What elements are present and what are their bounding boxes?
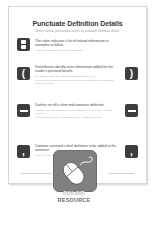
dash-icon-right xyxy=(125,104,138,117)
badge-label-resource: RESOURCE xyxy=(48,197,100,203)
comma-icon: , xyxy=(17,145,30,158)
close-parenthesis-icon: ) xyxy=(125,67,138,80)
dash-icon xyxy=(17,104,30,117)
comma-icon-right: , xyxy=(125,145,138,158)
page-title: Punctuate Definition Details xyxy=(9,20,146,27)
entry-example-2: The PLC (Programmable Logic Controller) … xyxy=(35,79,121,85)
entry-example: These technologies require reliable hard… xyxy=(35,49,121,52)
entry-example: A single board microcontroller—a microco… xyxy=(35,109,121,115)
colon-icon xyxy=(17,38,30,51)
footer-rule-right xyxy=(109,173,134,174)
page-subtitle: Define various punctuation marks to punc… xyxy=(9,29,146,33)
footer-rule-left xyxy=(21,173,51,174)
entry-heading: Dashes set off a short mid-sentence defi… xyxy=(35,103,121,107)
open-parenthesis-icon: ( xyxy=(17,67,30,80)
entry-example: The SBC (or Smart Box Controller) manage… xyxy=(35,75,121,78)
badge-label-online: ONLINE xyxy=(48,190,100,196)
online-resource-badge[interactable] xyxy=(53,150,97,192)
mouse-icon xyxy=(54,151,96,191)
entry-heading: The colon indicates a list of related in… xyxy=(35,39,121,47)
entry-example-2: An embedded system—a dedicated device—ha… xyxy=(35,116,121,119)
entry-heading: Parentheses identify extra information a… xyxy=(35,65,121,73)
